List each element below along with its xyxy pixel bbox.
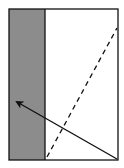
diagram-canvas: [0, 0, 124, 168]
dashed-line: [47, 28, 117, 157]
shaded-strip: [9, 9, 45, 160]
